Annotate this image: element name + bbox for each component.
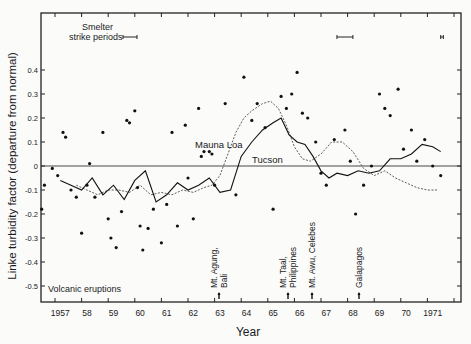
chart-root: 0.40.30.20.10-0.1-0.2-0.3-0.4-0.51957585… — [0, 0, 471, 344]
data-point — [290, 92, 293, 95]
series-lines — [60, 101, 440, 202]
data-point — [51, 167, 54, 170]
tucson-line — [60, 118, 440, 202]
data-point — [280, 95, 283, 98]
x-tick-label: 59 — [109, 308, 119, 318]
eruption-label: Mt. Awu, Celebes — [307, 222, 317, 288]
data-point — [397, 88, 400, 91]
data-point — [200, 155, 203, 158]
eruption-arrow-icon — [358, 292, 361, 295]
data-point — [139, 224, 142, 227]
data-point — [319, 172, 322, 175]
y-tick-label: 0.4 — [28, 66, 38, 75]
data-point — [40, 208, 43, 211]
x-tick-label: 65 — [268, 308, 278, 318]
data-point — [210, 152, 213, 155]
y-tick-label: 0.2 — [28, 114, 38, 123]
smelter-label-line1: Smelter — [82, 22, 113, 32]
data-point — [349, 160, 352, 163]
data-point — [362, 184, 365, 187]
eruption-name-line1: Mt. Agung, — [209, 247, 219, 288]
mauna-loa-line — [76, 101, 438, 195]
data-point — [224, 102, 227, 105]
x-tick-label: 1957 — [51, 308, 70, 318]
volcanic-eruptions-label: Volcanic eruptions — [48, 284, 122, 294]
data-point — [333, 138, 336, 141]
data-point — [202, 150, 205, 153]
data-point — [160, 241, 163, 244]
eruption-arrow-icon — [311, 292, 314, 295]
turbidity-chart: 0.40.30.20.10-0.1-0.2-0.3-0.4-0.51957585… — [0, 0, 471, 344]
data-point — [170, 131, 173, 134]
x-tick-label: 64 — [242, 308, 252, 318]
x-tick-label: 60 — [135, 308, 145, 318]
data-point — [306, 116, 309, 119]
data-point — [415, 160, 418, 163]
eruption-name-line1: Mt. Taal, — [278, 256, 288, 288]
data-point — [410, 128, 413, 131]
eruption-arrow-icon — [218, 292, 221, 295]
x-tick-label: 63 — [215, 308, 225, 318]
y-tick-label: 0 — [34, 162, 38, 171]
x-tick-label: 58 — [82, 308, 92, 318]
y-tick-label: 0.1 — [28, 138, 38, 147]
x-axis-label: Year — [236, 325, 260, 339]
annotations: Mauna LoaTucsonSmelterstrike periodsVolc… — [48, 22, 443, 299]
eruption-arrow-icon — [287, 292, 290, 295]
data-point — [256, 102, 259, 105]
x-tick-label: 70 — [401, 308, 411, 318]
observation-dots — [40, 71, 442, 252]
data-point — [43, 184, 46, 187]
data-point — [370, 164, 373, 167]
data-point — [250, 119, 253, 122]
x-tick-label: 1971 — [423, 308, 442, 318]
data-point — [75, 196, 78, 199]
data-point — [301, 112, 304, 115]
data-point — [234, 193, 237, 196]
data-point — [213, 184, 216, 187]
data-point — [64, 136, 67, 139]
data-point — [325, 184, 328, 187]
data-point — [133, 109, 136, 112]
data-point — [152, 208, 155, 211]
y-tick-label: -0.1 — [25, 186, 38, 195]
eruption-name-line2: Bali — [219, 274, 229, 288]
data-point — [285, 107, 288, 110]
data-point — [423, 138, 426, 141]
data-point — [192, 217, 195, 220]
eruption-label: Galapagos — [354, 247, 364, 288]
data-point — [165, 203, 168, 206]
y-tick-label: -0.5 — [25, 282, 38, 291]
data-point — [242, 76, 245, 79]
data-point — [69, 188, 72, 191]
data-point — [431, 164, 434, 167]
x-tick-label: 68 — [348, 308, 358, 318]
x-tick-label: 61 — [162, 308, 172, 318]
data-point — [264, 126, 267, 129]
data-point — [208, 150, 211, 153]
x-tick-label: 62 — [189, 308, 199, 318]
data-point — [80, 232, 83, 235]
data-point — [296, 71, 299, 74]
data-point — [272, 208, 275, 211]
axis-ticks: 0.40.30.20.10-0.1-0.2-0.3-0.4-0.51957585… — [25, 13, 461, 318]
data-point — [125, 119, 128, 122]
data-point — [93, 196, 96, 199]
eruption-name-line2: Philippines — [288, 247, 298, 288]
data-point — [109, 236, 112, 239]
mauna-loa-label: Mauna Loa — [195, 139, 243, 150]
data-point — [115, 246, 118, 249]
data-point — [101, 131, 104, 134]
tucson-label: Tucson — [252, 154, 283, 165]
data-point — [197, 107, 200, 110]
plot-border — [41, 13, 461, 302]
y-tick-label: 0.3 — [28, 90, 38, 99]
data-point — [176, 224, 179, 227]
data-point — [354, 212, 357, 215]
smelter-label-line2: strike periods — [69, 32, 123, 42]
data-point — [85, 184, 88, 187]
data-point — [184, 124, 187, 127]
x-tick-label: 66 — [295, 308, 305, 318]
data-point — [128, 121, 131, 124]
data-point — [56, 174, 59, 177]
